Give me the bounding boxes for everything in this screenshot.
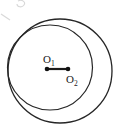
label-o2: O2 xyxy=(66,73,78,88)
geometry-figure: O1 O2 xyxy=(0,0,132,138)
center-point-o2 xyxy=(66,67,71,72)
label-o2-letter: O xyxy=(66,73,74,85)
label-o1: O1 xyxy=(43,53,55,68)
center-point-o1 xyxy=(45,67,50,72)
scan-artifact-mark xyxy=(17,0,25,6)
scan-artifact-stroke xyxy=(1,14,10,20)
label-o1-subscript: 1 xyxy=(51,59,55,68)
two-circles-svg: O1 O2 xyxy=(0,0,132,138)
label-o1-letter: O xyxy=(43,53,51,65)
label-o2-subscript: 2 xyxy=(74,79,78,88)
